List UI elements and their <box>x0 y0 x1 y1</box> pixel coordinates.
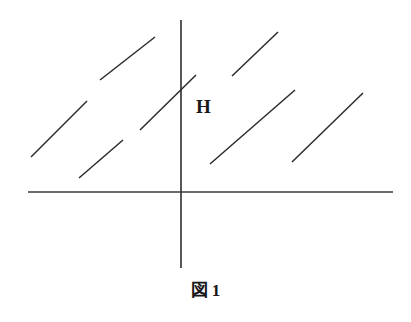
hatch-line-5 <box>232 32 278 76</box>
hatch-line-2 <box>79 140 123 178</box>
figure-container: H 図1 <box>0 0 411 322</box>
axes-group <box>28 20 393 268</box>
hatch-line-7 <box>292 93 363 162</box>
hatch-line-6 <box>210 90 295 164</box>
hatch-line-4 <box>140 75 196 130</box>
figure-caption: 図1 <box>0 282 411 299</box>
hatch-line-3 <box>100 37 155 80</box>
caption-number: 1 <box>208 281 221 300</box>
region-label-h: H <box>196 97 211 116</box>
hatch-line-1 <box>31 101 87 157</box>
caption-symbol: 図 <box>191 280 208 300</box>
figure-drawing <box>0 0 411 322</box>
